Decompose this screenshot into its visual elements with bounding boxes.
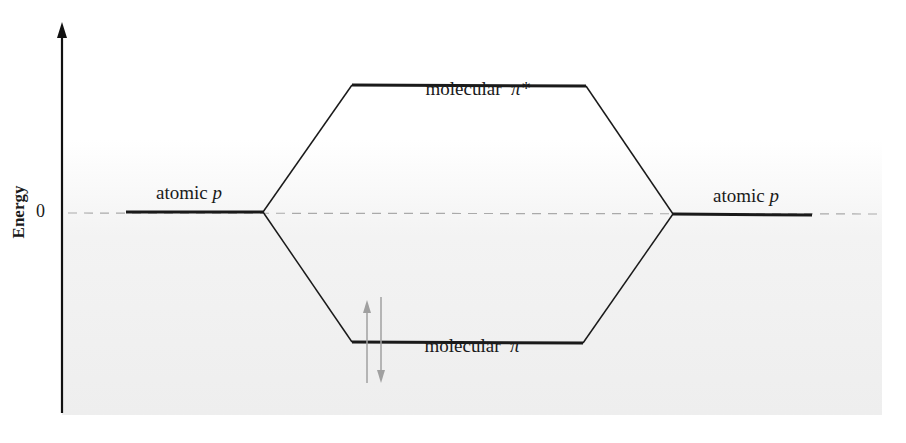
antibonding-pi-star-label: molecular π* bbox=[416, 56, 530, 100]
electron-spin-down-arrow bbox=[377, 297, 385, 383]
energy-axis-label: Energy bbox=[9, 186, 29, 239]
energy-axis bbox=[57, 22, 67, 413]
zero-tick-label: 0 bbox=[36, 201, 45, 222]
bonding-pi-label: molecular π bbox=[415, 313, 520, 357]
atomic-p-right-label: atomic p bbox=[713, 185, 779, 207]
atomic-p-right-level bbox=[673, 214, 812, 215]
atomic-p-left-label: atomic p bbox=[156, 182, 222, 204]
